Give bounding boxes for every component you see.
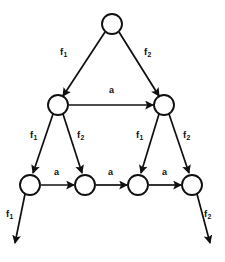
state-node[interactable] xyxy=(182,175,202,195)
edge-label: a xyxy=(108,168,113,177)
edge-arrow xyxy=(63,114,82,173)
edge-arrow xyxy=(15,194,25,243)
state-node[interactable] xyxy=(128,175,148,195)
edges-layer xyxy=(15,32,210,243)
diagram-canvas: f1f2af1f2f1f2aaaf1f2 xyxy=(0,0,225,262)
edge-label: f2 xyxy=(183,130,190,140)
state-node[interactable] xyxy=(75,175,95,195)
state-node[interactable] xyxy=(48,95,68,115)
edge-label: f1 xyxy=(6,209,13,219)
state-node[interactable] xyxy=(20,175,40,195)
edge-label: f2 xyxy=(77,130,84,140)
state-node[interactable] xyxy=(154,95,174,115)
edge-label: a xyxy=(54,168,59,177)
edge-label: f1 xyxy=(60,47,67,57)
edge-arrow xyxy=(119,32,159,96)
edge-label: f2 xyxy=(144,47,151,57)
edge-label: a xyxy=(109,86,114,95)
edge-arrow xyxy=(33,114,53,173)
edge-label: f1 xyxy=(30,130,37,140)
state-node[interactable] xyxy=(102,14,122,34)
edge-arrow xyxy=(141,114,159,173)
edge-label: f1 xyxy=(136,130,143,140)
edge-arrow xyxy=(169,114,189,173)
edge-arrow xyxy=(63,32,105,96)
edge-label: a xyxy=(162,168,167,177)
edge-label: f2 xyxy=(204,209,211,219)
